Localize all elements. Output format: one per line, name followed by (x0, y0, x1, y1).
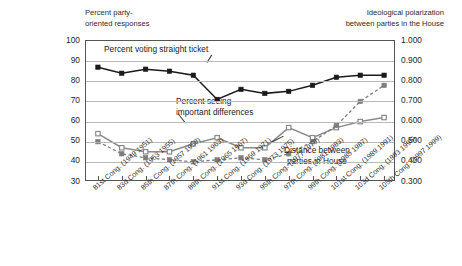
gridline (86, 61, 394, 62)
series-marker (334, 123, 338, 127)
axis-tick-label: 80 (52, 76, 80, 85)
axis-tick-label: 0.800 (401, 76, 447, 85)
series-marker (96, 131, 100, 135)
series-marker (167, 69, 171, 73)
series-marker (143, 67, 147, 71)
series-marker (286, 89, 290, 93)
gridline (86, 81, 394, 82)
important-differences-annotation: Percent seeing important differences (176, 96, 253, 118)
gridline (86, 122, 394, 123)
series-marker (263, 91, 267, 95)
chart-figure: Percent party- oriented responses Ideolo… (0, 0, 462, 266)
series-marker (286, 125, 290, 129)
straight-ticket-annotation: Percent voting straight ticket (104, 44, 208, 55)
axis-tick-label: 1.000 (401, 36, 447, 45)
x-axis-category-labels: 81st Cong. (1949 1951)83d Cong. (1953 19… (0, 181, 462, 266)
series-marker (382, 73, 386, 77)
series-marker (239, 87, 243, 91)
series-marker (191, 73, 195, 77)
series-marker (310, 83, 314, 87)
series-marker (334, 75, 338, 79)
left-axis-title: Percent party- oriented responses (85, 8, 150, 29)
left-axis-tick-labels: 10090807060504030 (52, 40, 80, 181)
axis-tick-label: 50 (52, 136, 80, 145)
series-marker (120, 71, 124, 75)
axis-tick-label: 70 (52, 96, 80, 105)
series-marker (382, 115, 386, 119)
series-marker (358, 73, 362, 77)
axis-tick-label: 0.600 (401, 116, 447, 125)
axis-tick-label: 90 (52, 56, 80, 65)
series-marker (120, 146, 124, 150)
gridline (86, 101, 394, 102)
series-line (98, 67, 384, 99)
axis-tick-label: 60 (52, 116, 80, 125)
axis-tick-label: 100 (52, 36, 80, 45)
axis-tick-label: 0.900 (401, 56, 447, 65)
series-marker (382, 83, 386, 87)
series-marker (96, 65, 100, 69)
axis-tick-label: 0.700 (401, 96, 447, 105)
right-axis-title: Ideological polarization between parties… (346, 8, 444, 29)
axis-tick-label: 40 (52, 156, 80, 165)
